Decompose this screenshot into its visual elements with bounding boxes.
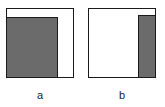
panel-b-filled-region — [138, 15, 156, 78]
panel-a-filled-region — [6, 17, 58, 78]
panel-a-label: a — [34, 89, 46, 101]
panel-b-label: b — [116, 89, 128, 101]
